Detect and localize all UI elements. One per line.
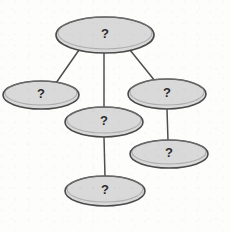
edge-middle-to-bottom [104, 137, 105, 177]
node-layer: ? ? ? ? ? [3, 17, 208, 206]
diagram-canvas: ? ? ? ? ? [0, 0, 230, 232]
node-bottom[interactable]: ? [65, 176, 145, 206]
node-top[interactable]: ? [56, 17, 154, 53]
node-right-lower-label: ? [165, 145, 173, 160]
edge-top-to-left [56, 50, 79, 83]
edge-top-to-right-upper [130, 50, 155, 81]
node-left[interactable]: ? [3, 81, 79, 109]
node-top-label: ? [101, 26, 109, 41]
node-middle[interactable]: ? [65, 107, 143, 137]
node-bottom-label: ? [101, 182, 109, 197]
node-middle-label: ? [100, 113, 108, 128]
edge-right-upper-to-right-lower [167, 109, 168, 141]
graph-svg: ? ? ? ? ? [0, 0, 230, 232]
node-right-upper-label: ? [163, 85, 171, 100]
node-right-upper[interactable]: ? [128, 79, 206, 109]
node-right-lower[interactable]: ? [130, 140, 208, 168]
node-left-label: ? [37, 86, 45, 101]
